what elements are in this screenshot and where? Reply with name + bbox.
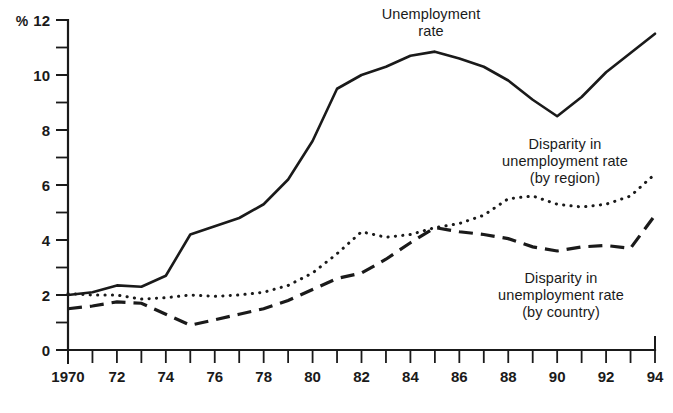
series-label-disparity-by-region: Disparity in unemployment rate (by regio… bbox=[481, 136, 649, 187]
y-axis-unit-label-text: % bbox=[16, 13, 29, 29]
x-tick-label: 72 bbox=[109, 368, 126, 385]
x-tick-label: 80 bbox=[304, 368, 321, 385]
x-tick-label: 88 bbox=[500, 368, 517, 385]
x-axis-tick-labels: 1970727476788082848688909294 bbox=[51, 368, 664, 385]
y-tick-label: 2 bbox=[42, 287, 50, 304]
x-tick-label: 86 bbox=[451, 368, 468, 385]
y-axis-unit-label: % bbox=[16, 13, 29, 29]
y-tick-label: 8 bbox=[42, 122, 50, 139]
x-tick-label: 1970 bbox=[51, 368, 84, 385]
x-tick-label: 82 bbox=[353, 368, 370, 385]
y-axis-tick-labels: 024681012 bbox=[33, 12, 50, 359]
x-tick-label: 74 bbox=[157, 368, 174, 385]
x-tick-label: 84 bbox=[402, 368, 419, 385]
x-tick-label: 76 bbox=[206, 368, 223, 385]
chart-plot-area: 024681012 1970727476788082848688909294 % bbox=[0, 0, 673, 413]
y-tick-label: 6 bbox=[42, 177, 50, 194]
y-tick-label: 12 bbox=[33, 12, 50, 29]
series-label-unemployment-rate: Unemployment rate bbox=[346, 6, 516, 40]
series-label-disparity-by-country: Disparity in unemployment rate (by count… bbox=[471, 270, 651, 321]
x-tick-label: 94 bbox=[647, 368, 664, 385]
x-tick-label: 90 bbox=[549, 368, 566, 385]
x-tick-label: 92 bbox=[598, 368, 615, 385]
unemployment-chart: 024681012 1970727476788082848688909294 %… bbox=[0, 0, 673, 413]
y-tick-label: 10 bbox=[33, 67, 50, 84]
y-tick-label: 4 bbox=[42, 232, 51, 249]
x-tick-label: 78 bbox=[255, 368, 272, 385]
y-tick-label: 0 bbox=[42, 342, 50, 359]
